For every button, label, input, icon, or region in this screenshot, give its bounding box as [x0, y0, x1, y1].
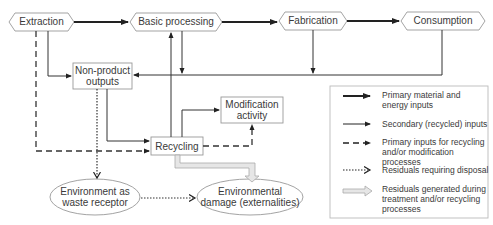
flow-consumption-to-nonproduct [134, 30, 442, 75]
legend-item-dashed: Primary inputs for recycling and/or modi… [382, 137, 493, 167]
legend-item-dotted: Residuals requiring disposal [382, 165, 488, 175]
label-env-receptor-1: Environment as [50, 186, 140, 197]
label-extraction: Extraction [15, 16, 68, 27]
label-non-product-2: outputs [73, 76, 132, 87]
label-non-product-1: Non-product [73, 65, 132, 76]
legend-item-primary: Primary material and energy inputs [382, 90, 460, 110]
flow-recycling-to-modification [182, 110, 219, 137]
label-fabrication: Fabrication [285, 15, 341, 26]
label-env-damage-1: Environmental [197, 186, 303, 197]
label-consumption: Consumption [407, 15, 479, 26]
label-modification-1: Modification [221, 99, 283, 110]
label-basic-processing: Basic processing [136, 16, 216, 27]
flow-recycling-hollow-to-damage [175, 155, 259, 182]
flow-recycling-dashed-to-modification [203, 125, 252, 146]
label-env-receptor-2: waste receptor [50, 197, 140, 208]
legend-item-secondary: Secondary (recycled) inputs [382, 119, 487, 129]
label-modification-2: activity [221, 110, 283, 121]
flow-nonproduct-to-recycling [107, 89, 149, 141]
label-env-damage-2: damage (externalities) [197, 197, 303, 208]
flow-extraction-dashed-to-recycling [36, 31, 149, 151]
flow-extraction-to-nonproduct [48, 31, 71, 76]
label-recycling: Recycling [151, 141, 203, 152]
legend-item-hollow: Residuals generated during treatment and… [382, 184, 486, 214]
